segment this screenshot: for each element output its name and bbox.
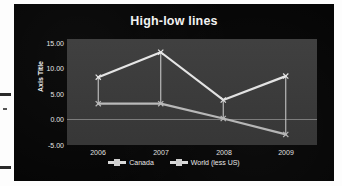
plot-area: 2006 2007 2008 2009	[67, 39, 317, 145]
y-tick-label: 0.00	[50, 116, 64, 123]
legend-marker-icon	[108, 161, 126, 164]
legend-label: Canada	[129, 159, 154, 166]
x-tick-label: 2008	[216, 149, 232, 156]
y-axis-title: Axis Title	[37, 61, 44, 92]
scan-artifact-mark	[0, 166, 11, 169]
legend-item-canada[interactable]: Canada	[108, 159, 154, 166]
series-lines	[67, 39, 317, 145]
y-axis: 15.00 10.00 5.00 0.00 -5.00	[14, 39, 64, 145]
y-tick-label: 5.00	[50, 90, 64, 97]
legend-marker-icon	[170, 161, 188, 164]
y-tick-label: 10.00	[46, 65, 64, 72]
x-tick-label: 2009	[278, 149, 294, 156]
x-tick-label: 2006	[90, 149, 106, 156]
scan-artifact-mark	[0, 93, 11, 96]
chart-legend: Canada World (less US)	[14, 159, 334, 166]
scan-artifact-mark	[3, 108, 7, 110]
y-tick-label: 15.00	[46, 39, 64, 46]
legend-label: World (less US)	[191, 159, 240, 166]
chart-figure: High-low lines 15.00 10.00 5.00 0.00 -5.…	[14, 4, 334, 181]
scanned-page: High-low lines 15.00 10.00 5.00 0.00 -5.…	[0, 0, 342, 186]
y-tick-label: -5.00	[48, 141, 64, 148]
legend-item-world-less-us[interactable]: World (less US)	[170, 159, 240, 166]
chart-title: High-low lines	[14, 14, 334, 28]
x-tick-label: 2007	[153, 149, 169, 156]
